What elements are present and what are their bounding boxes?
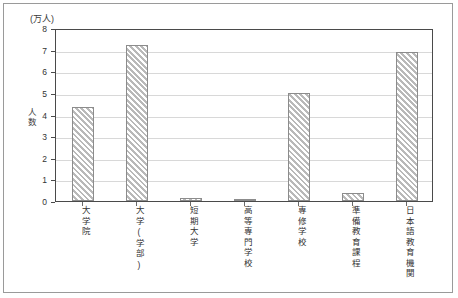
gridline	[56, 181, 432, 182]
y-axis-tick-label: 1	[29, 175, 47, 185]
y-axis-tick-label: 3	[29, 132, 47, 142]
x-axis-category-label: 準備教育課程	[344, 206, 360, 269]
y-axis-tick-mark	[51, 159, 55, 160]
bar	[288, 93, 310, 201]
gridline	[56, 138, 432, 139]
gridline	[56, 95, 432, 96]
y-axis-tick-mark	[51, 29, 55, 30]
y-axis-tick-mark	[51, 202, 55, 203]
y-axis-tick-label: 4	[29, 111, 47, 121]
y-axis-tick-mark	[51, 180, 55, 181]
bar	[342, 193, 364, 201]
y-axis-tick-label: 7	[29, 46, 47, 56]
x-axis-category-label: 短期大学	[182, 206, 198, 248]
bar	[72, 107, 94, 201]
y-axis-tick-label: 8	[29, 24, 47, 34]
plot-wrapper	[55, 29, 433, 202]
y-axis-tick-mark	[51, 51, 55, 52]
y-axis-tick-label: 5	[29, 89, 47, 99]
bar	[180, 198, 202, 201]
x-axis-category-label: 日本語教育機関	[398, 206, 414, 280]
bar	[396, 52, 418, 201]
x-axis-category-label: 専修学校	[290, 206, 306, 248]
y-axis-tick-label: 6	[29, 67, 47, 77]
y-axis-tick-mark	[51, 137, 55, 138]
y-axis-tick-label: 0	[29, 197, 47, 207]
x-axis-category-label: 大学院	[74, 206, 90, 238]
x-axis-category-label: 大学(学部)	[128, 206, 144, 271]
bar	[126, 45, 148, 201]
y-axis-tick-label: 2	[29, 154, 47, 164]
gridline	[56, 73, 432, 74]
y-axis-tick-mark	[51, 94, 55, 95]
x-axis-category-label: 高等専門学校	[236, 206, 252, 269]
gridline	[56, 52, 432, 53]
chart-screenshot: (万人) 人数 012345678大学院大学(学部)短期大学高等専門学校専修学校…	[0, 0, 458, 298]
gridline	[56, 160, 432, 161]
plot-area	[55, 29, 433, 202]
bar	[234, 199, 256, 201]
y-axis-tick-mark	[51, 72, 55, 73]
gridline	[56, 117, 432, 118]
y-axis-tick-mark	[51, 116, 55, 117]
